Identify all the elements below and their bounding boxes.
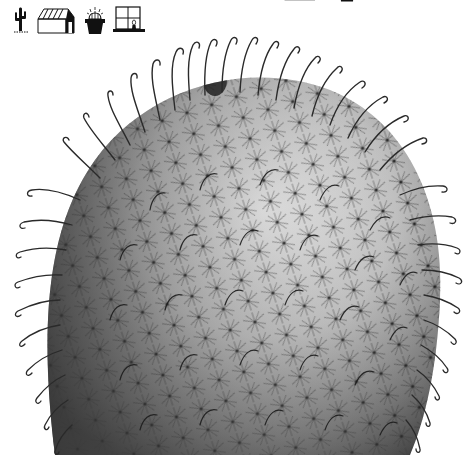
potted-cactus-icon: [335, 0, 359, 3]
window-plant-icon: [113, 6, 147, 34]
clipped-icon-row: [255, 0, 395, 4]
window-plant-icon: [360, 0, 394, 3]
cactus-photo: [0, 0, 469, 455]
cactus-icon: [12, 5, 30, 35]
greenhouse-icon: [283, 0, 325, 3]
potted-cactus-icon: [83, 3, 107, 35]
greenhouse-icon: [36, 7, 76, 35]
cactus-icon: [257, 0, 275, 3]
